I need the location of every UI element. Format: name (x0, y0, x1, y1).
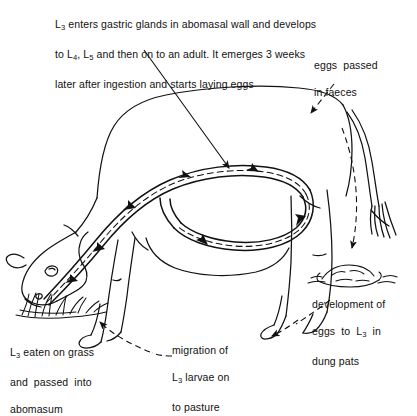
migration-line-2: L3 larvae on (172, 371, 229, 383)
dung-line-1: development of (312, 298, 385, 310)
grass-line-1: L3 eaten on grass (10, 346, 94, 358)
development-of-eggs-label: development of eggs to L3 in dung pats (312, 284, 416, 368)
grass-tuft (16, 293, 108, 318)
gut-flow-arrows (65, 163, 306, 283)
eggs-passed-in-faeces-label: eggs passed in faeces (314, 45, 414, 99)
cow-tail (347, 110, 396, 238)
dung-line-3: dung pats (312, 355, 359, 367)
grass-ingestion-link (152, 353, 172, 356)
migration-of-larvae-label: migration of L3 larvae on to pasture (172, 330, 282, 414)
grass-line-3: abomasum (10, 403, 63, 415)
note-line-3: later after ingestion and starts laying … (55, 78, 254, 90)
eggs-faeces-line-2: in faeces (314, 86, 357, 98)
dung-line-2: eggs to L3 in (312, 325, 381, 337)
migration-line-3: to pasture (172, 401, 220, 413)
migration-line-1: migration of (172, 344, 228, 356)
cow-legs (79, 190, 332, 348)
cow-body-outline (76, 86, 352, 232)
faeces-to-dung-arrow (342, 128, 357, 248)
note-line-1: L3 enters gastric glands in abomasal wal… (55, 18, 316, 30)
gut-lumen-dashed (47, 171, 309, 303)
cow-belly-line (132, 232, 289, 275)
larvae-eaten-on-grass-label: L3 eaten on grass and passed into abomas… (10, 332, 145, 416)
grass-line-2: and passed into (10, 376, 92, 388)
eggs-faeces-line-1: eggs passed (314, 59, 378, 71)
note-line-2: to L4, L5 and then on to an adult. It em… (55, 48, 305, 60)
